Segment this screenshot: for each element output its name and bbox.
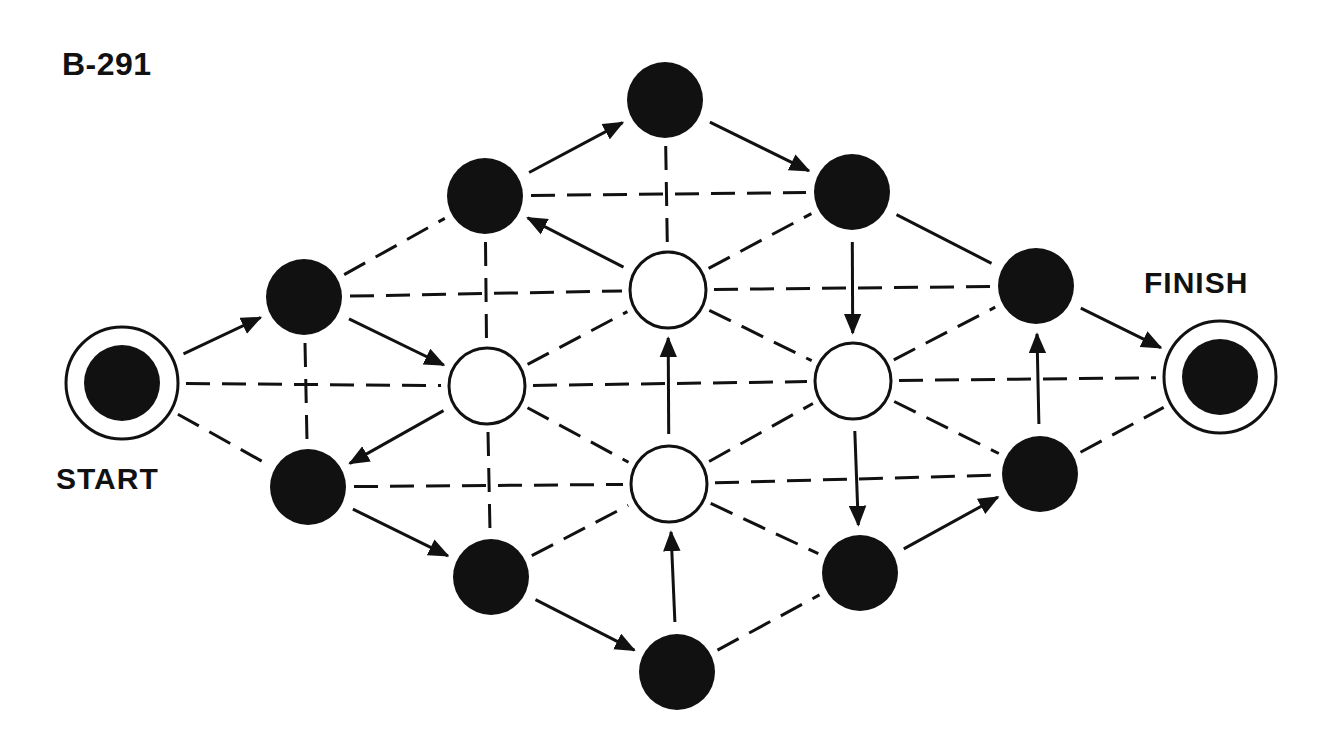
filled-dot-icon xyxy=(453,539,529,615)
node-N-filled xyxy=(1002,436,1078,512)
arrow-D-to-B xyxy=(350,411,444,464)
filled-dot-icon xyxy=(639,634,715,710)
arrow-M-to-finish xyxy=(1081,308,1161,348)
dashed-edge-H-N xyxy=(715,475,994,483)
arrow-F-to-J xyxy=(710,122,809,171)
node-C-filled xyxy=(447,158,523,234)
node-start-terminal xyxy=(66,327,178,439)
node-A-filled xyxy=(266,259,342,335)
node-B-filled xyxy=(270,449,346,525)
dashed-edge-G-K xyxy=(709,310,811,360)
dashed-edge-K-M xyxy=(894,307,995,360)
arrow-E-to-I xyxy=(536,600,635,651)
dashed-edge-G-J xyxy=(709,214,812,269)
arrow-K-to-L xyxy=(855,431,859,525)
dashed-edge-K-N xyxy=(894,402,999,454)
node-F-filled xyxy=(627,62,703,138)
arrow-C-to-F xyxy=(529,123,623,173)
node-E-filled xyxy=(453,539,529,615)
dashed-edge-start-B xyxy=(178,414,268,464)
filled-dot-icon xyxy=(84,345,160,421)
open-circle-icon xyxy=(630,252,706,328)
dashed-edge-F-G xyxy=(666,146,668,244)
dashed-edge-C-J xyxy=(531,193,806,196)
dashed-edge-D-K xyxy=(533,382,807,386)
dashed-edge-C-D xyxy=(486,242,487,340)
filled-dot-icon xyxy=(822,535,898,611)
puzzle-id-label: B-291 xyxy=(62,48,152,80)
dashed-connections xyxy=(178,146,1164,650)
dashed-edge-I-L xyxy=(718,595,820,650)
arrow-B-to-E xyxy=(353,509,448,556)
open-circle-icon xyxy=(631,446,707,522)
arrow-A-to-D xyxy=(349,319,444,365)
open-circle-icon xyxy=(815,343,891,419)
node-M-filled xyxy=(998,248,1074,324)
filled-dot-icon xyxy=(814,154,890,230)
arrow-I-to-H xyxy=(671,532,675,622)
filled-dot-icon xyxy=(998,248,1074,324)
filled-dot-icon xyxy=(1002,436,1078,512)
dashed-edge-D-G xyxy=(528,312,628,365)
arrow-L-to-N xyxy=(904,497,998,549)
dashed-edge-H-L xyxy=(711,503,819,553)
filled-dot-icon xyxy=(1182,339,1258,415)
dashed-edge-D-H xyxy=(528,408,629,462)
dashed-edge-D-E xyxy=(488,432,490,531)
filled-dot-icon xyxy=(447,158,523,234)
arrow-N-to-M xyxy=(1037,334,1039,424)
filled-dot-icon xyxy=(270,449,346,525)
dashed-edge-A-B xyxy=(305,343,307,441)
solid-connections xyxy=(897,215,992,264)
dashed-edge-A-C xyxy=(344,218,445,274)
dashed-edge-K-finish xyxy=(899,378,1156,381)
open-circle-icon xyxy=(449,348,525,424)
finish-label: FINISH xyxy=(1144,268,1248,298)
solid-edge-J-M xyxy=(897,215,992,264)
node-K-open xyxy=(815,343,891,419)
nodes xyxy=(66,62,1276,710)
start-label: START xyxy=(56,464,159,494)
path-puzzle-diagram xyxy=(0,0,1327,749)
dashed-edge-N-finish xyxy=(1081,407,1164,452)
dashed-edge-E-H xyxy=(532,505,628,555)
filled-dot-icon xyxy=(266,259,342,335)
node-finish-terminal xyxy=(1164,321,1276,433)
node-L-filled xyxy=(822,535,898,611)
dashed-edge-start-D xyxy=(186,384,441,386)
node-G-open xyxy=(630,252,706,328)
node-J-filled xyxy=(814,154,890,230)
node-I-filled xyxy=(639,634,715,710)
filled-dot-icon xyxy=(627,62,703,138)
arrow-G-to-C xyxy=(528,218,624,267)
node-D-open xyxy=(449,348,525,424)
dashed-edge-H-K xyxy=(709,404,813,462)
arrow-start-to-A xyxy=(184,318,261,354)
node-H-open xyxy=(631,446,707,522)
arrow-H-to-G xyxy=(668,338,669,434)
